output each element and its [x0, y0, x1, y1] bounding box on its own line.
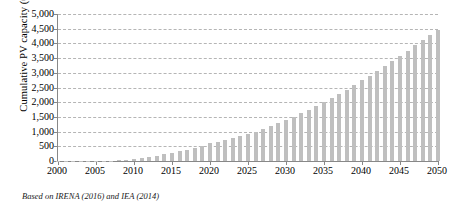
bar: [261, 129, 265, 161]
bar: [428, 35, 432, 161]
y-tick-label: 5,000: [10, 9, 54, 19]
bar: [223, 140, 227, 161]
y-tick-mark: [54, 88, 58, 89]
gridline: [58, 102, 438, 103]
bar: [185, 150, 189, 161]
bar: [94, 161, 98, 162]
bar: [64, 161, 68, 162]
bar: [269, 126, 273, 161]
bar: [383, 66, 387, 161]
bar: [178, 151, 182, 161]
y-tick-mark: [54, 132, 58, 133]
gridline: [58, 14, 438, 15]
bar: [208, 143, 212, 161]
bar: [307, 110, 311, 161]
bar: [322, 102, 326, 161]
x-tick-label: 2020: [189, 166, 229, 176]
bar: [147, 157, 151, 161]
bar: [124, 160, 128, 161]
x-tick-label: 2040: [341, 166, 381, 176]
bar: [360, 80, 364, 161]
y-tick-label: 4,000: [10, 38, 54, 48]
chart-footnote: Based on IRENA (2016) and IEA (2014): [22, 191, 159, 201]
y-tick-mark: [54, 14, 58, 15]
bar: [238, 136, 242, 161]
bar: [375, 71, 379, 161]
bar: [292, 117, 296, 161]
bar: [117, 160, 121, 161]
bar: [79, 161, 83, 162]
bar: [390, 61, 394, 161]
x-tick-label: 2045: [379, 166, 419, 176]
bar: [337, 94, 341, 161]
bar: [299, 113, 303, 161]
y-tick-mark: [54, 58, 58, 59]
bar: [170, 153, 174, 161]
x-tick-label: 2005: [75, 166, 115, 176]
bar: [368, 76, 372, 161]
y-tick-mark: [54, 117, 58, 118]
y-tick-label: 2,500: [10, 83, 54, 93]
x-tick-label: 2030: [265, 166, 305, 176]
gridline: [58, 58, 438, 59]
plot-area: [57, 14, 438, 162]
bar: [284, 120, 288, 161]
bar: [352, 85, 356, 161]
bar: [330, 98, 334, 161]
x-tick-label: 2035: [303, 166, 343, 176]
pv-capacity-bar-chart: Cumulative PV capacity (GW) 5,0004,5004,…: [0, 0, 454, 215]
bar: [254, 132, 258, 161]
bar: [231, 138, 235, 161]
y-tick-label: 1,000: [10, 127, 54, 137]
y-tick-label: 4,500: [10, 24, 54, 34]
x-tick-label: 2015: [151, 166, 191, 176]
bar: [193, 148, 197, 161]
bar: [436, 30, 440, 161]
bar: [71, 161, 75, 162]
bar: [56, 161, 60, 162]
gridline: [58, 88, 438, 89]
bar: [406, 51, 410, 161]
gridline: [58, 117, 438, 118]
y-tick-label: 3,000: [10, 68, 54, 78]
x-tick-label: 2050: [417, 166, 454, 176]
y-tick-label: 500: [10, 141, 54, 151]
x-tick-label: 2025: [227, 166, 267, 176]
bar: [421, 40, 425, 161]
y-tick-label: 2,000: [10, 97, 54, 107]
bar: [398, 56, 402, 161]
bar: [413, 45, 417, 161]
bar: [246, 134, 250, 161]
bar: [140, 158, 144, 161]
bar: [345, 90, 349, 161]
y-tick-mark: [54, 43, 58, 44]
bar: [155, 156, 159, 161]
bar: [216, 142, 220, 161]
bar: [132, 159, 136, 161]
bar: [102, 161, 106, 162]
bar: [86, 161, 90, 162]
bar: [314, 106, 318, 161]
gridline: [58, 73, 438, 74]
bar: [200, 146, 204, 161]
x-axis-tick-labels: 2000200520102015202020252030203520402045…: [0, 166, 454, 180]
gridline: [58, 132, 438, 133]
bar: [276, 123, 280, 161]
y-tick-label: 3,500: [10, 53, 54, 63]
y-tick-mark: [54, 73, 58, 74]
x-tick-label: 2000: [37, 166, 77, 176]
bar: [162, 154, 166, 161]
y-tick-label: 1,500: [10, 112, 54, 122]
x-tick-label: 2010: [113, 166, 153, 176]
y-tick-mark: [54, 29, 58, 30]
bar: [109, 161, 113, 162]
gridline: [58, 29, 438, 30]
gridline: [58, 43, 438, 44]
y-tick-mark: [54, 102, 58, 103]
y-axis-tick-labels: 5,0004,5004,0003,5003,0002,5002,0001,500…: [8, 0, 54, 215]
y-tick-mark: [54, 146, 58, 147]
